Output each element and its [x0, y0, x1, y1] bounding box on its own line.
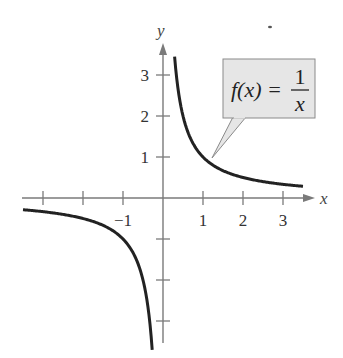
scan-speck	[268, 26, 272, 29]
x-tick-label: 3	[279, 211, 288, 230]
x-tick-label: −1	[114, 211, 132, 230]
x-axis-label: x	[319, 189, 328, 208]
y-tick-label: 3	[141, 66, 150, 85]
hyperbola-chart: x y −1123123 f(x) = 1 x	[0, 0, 343, 358]
y-axis-label: y	[155, 21, 165, 40]
x-axis-arrow-icon	[303, 194, 315, 202]
callout-numerator: 1	[295, 64, 306, 89]
y-tick-label: 2	[141, 107, 150, 126]
x-tick-label: 1	[199, 211, 208, 230]
y-tick-label: 1	[141, 148, 150, 167]
callout-pointer	[212, 117, 246, 158]
callout-lhs: f(x) =	[231, 77, 282, 102]
y-axis-arrow-icon	[159, 43, 167, 55]
function-callout: f(x) = 1 x	[212, 59, 315, 158]
x-tick-label: 2	[239, 211, 248, 230]
curve-negative-branch	[23, 210, 152, 350]
callout-denominator: x	[294, 91, 305, 116]
